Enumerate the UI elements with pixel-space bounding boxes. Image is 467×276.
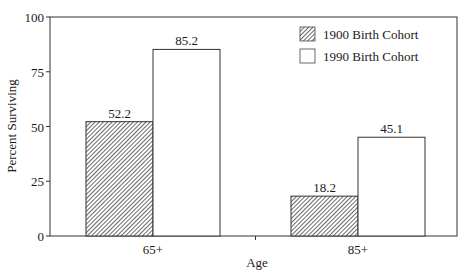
legend-swatch-1990	[300, 49, 315, 63]
bar-value-label: 45.1	[380, 121, 403, 136]
bar-value-label: 85.2	[175, 33, 198, 48]
x-axis: 65+85+	[143, 236, 368, 257]
legend-swatch-1900	[300, 27, 315, 41]
x-axis-label: Age	[246, 255, 268, 270]
legend-label-1900: 1900 Birth Cohort	[323, 27, 419, 42]
legend-label-1990: 1990 Birth Cohort	[323, 49, 419, 64]
y-tick-label: 75	[31, 65, 44, 80]
y-axis: 0255075100	[25, 10, 51, 244]
bar-1900-85plus	[291, 196, 358, 236]
y-tick-label: 0	[38, 229, 45, 244]
bar-1990-65plus	[153, 49, 220, 236]
bar-value-label: 18.2	[313, 180, 336, 195]
bar-chart: 0255075100 65+85+ 52.218.285.245.1 Perce…	[0, 0, 467, 276]
x-tick-label: 65+	[143, 242, 163, 257]
y-tick-label: 25	[31, 174, 44, 189]
bar-1990-85plus	[358, 137, 425, 236]
bar-value-label: 52.2	[108, 106, 131, 121]
y-tick-label: 50	[31, 120, 44, 135]
legend: 1900 Birth Cohort 1990 Birth Cohort	[300, 27, 419, 64]
bar-1900-65plus	[86, 122, 153, 236]
y-axis-label: Percent Surviving	[4, 79, 19, 173]
y-tick-label: 100	[25, 10, 45, 25]
x-tick-label: 85+	[348, 242, 368, 257]
